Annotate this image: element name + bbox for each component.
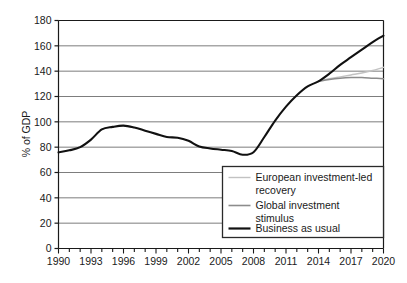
x-tick-label-2014: 2014 <box>307 255 331 267</box>
y-tick-label-140: 140 <box>34 65 52 77</box>
x-tick-label-2011: 2011 <box>275 255 298 267</box>
y-tick-label-0: 0 <box>46 242 52 254</box>
chart-background <box>0 0 407 283</box>
legend-label-european-investment-led-recovery: European investment-led <box>256 171 373 183</box>
y-axis-title: % of GDP <box>20 111 32 158</box>
y-tick-label-120: 120 <box>34 90 52 102</box>
x-tick-label-2017: 2017 <box>339 255 363 267</box>
x-tick-label-1993: 1993 <box>79 255 103 267</box>
y-tick-label-60: 60 <box>40 166 52 178</box>
x-tick-label-2020: 2020 <box>372 255 396 267</box>
y-tick-label-160: 160 <box>34 40 52 52</box>
x-tick-label-2005: 2005 <box>209 255 233 267</box>
x-tick-label-1999: 1999 <box>144 255 168 267</box>
line-chart: 020406080100120140160180 199019931996199… <box>0 0 407 283</box>
y-tick-label-20: 20 <box>40 217 52 229</box>
y-tick-label-100: 100 <box>34 116 52 128</box>
x-axis-tick-labels: 1990199319961999200220052008201120142017… <box>47 255 396 267</box>
y-tick-label-80: 80 <box>40 141 52 153</box>
legend-label-european-investment-led-recovery-line2: recovery <box>256 184 297 196</box>
chart-container: 020406080100120140160180 199019931996199… <box>0 0 407 283</box>
x-tick-label-1990: 1990 <box>47 255 71 267</box>
y-tick-label-180: 180 <box>34 14 52 26</box>
x-tick-label-2002: 2002 <box>177 255 201 267</box>
chart-legend: European investment-ledrecoveryGlobal in… <box>223 167 384 238</box>
x-tick-label-1996: 1996 <box>112 255 136 267</box>
x-tick-label-2008: 2008 <box>242 255 266 267</box>
legend-label-business-as-usual: Business as usual <box>256 222 341 234</box>
y-tick-label-40: 40 <box>40 192 52 204</box>
legend-label-global-investment-stimulus: Global investment <box>256 199 340 211</box>
